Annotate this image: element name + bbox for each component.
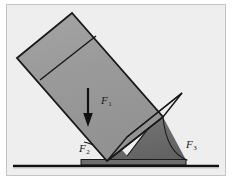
force-label-f1-subscript: 1 [108,100,112,108]
force-label-f3: F3 [186,139,196,150]
base-plate [81,160,186,166]
force-label-f2: F2 [79,143,89,154]
diagram-canvas [0,0,232,180]
force-label-f3-symbol: F [186,138,193,150]
force-label-f3-subscript: 3 [193,144,197,152]
force-label-f1-symbol: F [101,94,108,106]
force-label-f1: F1 [101,95,111,106]
force-label-f2-symbol: F [79,142,86,154]
figure-container: F1 F2 F3 [0,0,232,180]
force-label-f2-subscript: 2 [86,148,90,156]
